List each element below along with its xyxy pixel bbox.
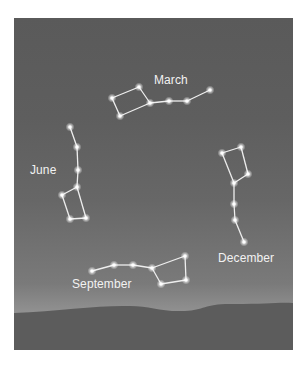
label-september: September bbox=[72, 277, 132, 291]
star-icon bbox=[220, 151, 223, 154]
constellation-line bbox=[120, 103, 150, 116]
star-icon bbox=[150, 266, 153, 269]
constellation-drawing bbox=[14, 18, 293, 350]
constellation-line bbox=[222, 153, 234, 183]
star-icon bbox=[68, 217, 71, 220]
star-icon bbox=[208, 88, 211, 91]
star-icon bbox=[232, 181, 235, 184]
star-icon bbox=[137, 85, 140, 88]
star-icon bbox=[239, 145, 242, 148]
star-icon bbox=[148, 101, 151, 104]
star-icon bbox=[75, 145, 78, 148]
constellation-line bbox=[152, 256, 185, 268]
star-icon bbox=[242, 240, 245, 243]
star-icon bbox=[183, 254, 186, 257]
star-icon bbox=[90, 269, 93, 272]
star-icon bbox=[232, 202, 235, 205]
star-icon bbox=[84, 216, 87, 219]
constellation-december bbox=[222, 147, 248, 242]
star-icon bbox=[159, 282, 162, 285]
star-icon bbox=[233, 218, 236, 221]
star-icon bbox=[246, 172, 249, 175]
star-icon bbox=[167, 99, 170, 102]
constellation-march bbox=[112, 87, 210, 116]
constellation-line bbox=[77, 187, 86, 218]
star-icon bbox=[131, 263, 134, 266]
star-icon bbox=[185, 99, 188, 102]
star-icon bbox=[184, 278, 187, 281]
star-icon bbox=[68, 125, 71, 128]
star-icon bbox=[60, 193, 63, 196]
star-icon bbox=[75, 185, 78, 188]
night-sky-panel: March June December September bbox=[14, 18, 293, 350]
horizon-hills bbox=[14, 303, 293, 350]
star-icon bbox=[76, 168, 79, 171]
label-june: June bbox=[30, 163, 56, 177]
label-december: December bbox=[218, 251, 274, 265]
label-march: March bbox=[154, 73, 188, 87]
star-icon bbox=[118, 114, 121, 117]
star-icon bbox=[112, 263, 115, 266]
constellation-june bbox=[62, 127, 86, 219]
star-icon bbox=[110, 96, 113, 99]
